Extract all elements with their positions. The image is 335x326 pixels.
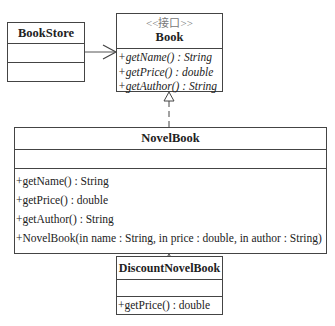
- operation: +getAuthor() : String: [15, 210, 326, 229]
- operation: +getPrice() : double: [117, 65, 222, 80]
- operation: +getName() : String: [117, 50, 222, 65]
- attributes-compartment: [15, 149, 326, 168]
- class-name: Book: [117, 30, 222, 45]
- operations-compartment: +getPrice() : double: [117, 296, 222, 314]
- header-compartment: <<接口>> Book: [117, 14, 222, 48]
- class-name: BookStore: [8, 23, 84, 43]
- operation: +NovelBook(in name : String, in price : …: [15, 229, 326, 248]
- class-book: <<接口>> Book +getName() : String +getPric…: [116, 13, 223, 92]
- class-name: NovelBook: [15, 128, 326, 149]
- class-discountnovelbook: DiscountNovelBook +getPrice() : double: [116, 256, 223, 315]
- operations-compartment: [8, 62, 84, 81]
- operation: +getPrice() : double: [117, 297, 222, 314]
- operations-compartment: +getName() : String +getPrice() : double…: [15, 168, 326, 253]
- operation: +getName() : String: [15, 172, 326, 191]
- operation: +getAuthor() : String: [117, 79, 222, 94]
- attributes-compartment: [117, 279, 222, 296]
- class-name: DiscountNovelBook: [117, 257, 222, 279]
- class-bookstore: BookStore: [7, 22, 85, 82]
- operations-compartment: +getName() : String +getPrice() : double…: [117, 48, 222, 91]
- stereotype-label: <<接口>>: [117, 16, 222, 30]
- attributes-compartment: [8, 43, 84, 62]
- operation: +getPrice() : double: [15, 191, 326, 210]
- class-novelbook: NovelBook +getName() : String +getPrice(…: [14, 127, 327, 254]
